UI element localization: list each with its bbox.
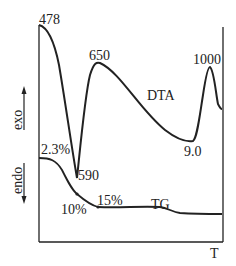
dta-tg-chart: exo endo 478 650 DTA 9.0 1000 2.3% 590 1… [0,0,236,266]
label-590: 590 [78,168,99,183]
exo-arrow-icon [22,86,27,94]
exo-label: exo [10,110,25,130]
label-15-percent: 15% [97,193,123,208]
label-tg: TG [151,197,170,212]
x-axis-label: T [210,246,219,261]
label-dta: DTA [147,88,176,103]
label-9-0: 9.0 [184,144,202,159]
endo-arrow-icon [22,196,27,204]
label-10-percent: 10% [61,202,87,217]
label-1000: 1000 [193,52,221,67]
endo-label: endo [10,167,25,194]
label-478: 478 [39,12,60,27]
label-650: 650 [89,48,110,63]
label-2-3-percent: 2.3% [41,142,71,157]
tg-marker-10 [75,192,78,195]
